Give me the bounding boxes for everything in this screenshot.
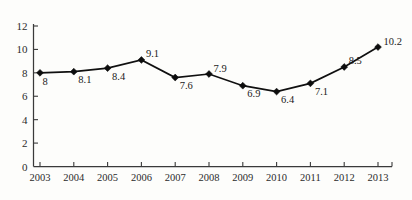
y-axis: 024681012 [17,20,39,173]
y-axis-tick-label: 2 [22,137,28,149]
y-axis-tick-label: 12 [17,20,28,32]
x-axis: 2003200420052006200720082009201020112012… [30,162,393,183]
data-point-marker [273,88,280,95]
data-point-marker [239,82,246,89]
data-point-label: 6.9 [247,88,260,99]
data-point-label: 8.4 [112,71,126,82]
data-point-label: 8.1 [78,74,91,85]
data-point-label: 6.4 [281,94,295,105]
data-point-marker [172,74,179,81]
data-point-label: 7.6 [180,80,193,91]
data-point-marker [138,57,145,64]
data-point-label: 7.1 [315,86,328,97]
data-point-label: 10.2 [384,36,402,47]
y-axis-tick-label: 8 [22,67,28,79]
x-axis-tick-label: 2003 [30,172,51,183]
x-axis-tick-label: 2010 [266,172,287,183]
y-axis-tick-label: 0 [22,161,28,173]
y-axis-tick-label: 10 [17,43,29,55]
data-point-marker [104,65,111,72]
data-point-label: 9.1 [146,48,159,59]
x-axis-tick-label: 2011 [300,172,321,183]
x-axis-tick-label: 2009 [232,172,253,183]
x-axis-tick-label: 2007 [165,172,186,183]
y-axis-tick-label: 6 [22,90,28,102]
data-point-label: 8 [43,76,48,87]
data-point-label: 7.9 [214,63,227,74]
x-axis-tick-label: 2006 [131,172,152,183]
data-point-label: 8.5 [349,55,362,66]
x-axis-tick-label: 2012 [334,172,355,183]
x-axis-tick-label: 2005 [97,172,118,183]
data-value-labels: 88.18.49.17.67.96.96.47.18.510.2 [43,36,402,105]
data-point-marker [307,80,314,87]
x-axis-tick-label: 2013 [368,172,389,183]
x-axis-tick-label: 2004 [63,172,85,183]
chart-canvas: 024681012 200320042005200620072008200920… [0,0,412,200]
data-point-marker [70,68,77,75]
data-point-marker [206,71,213,78]
x-axis-tick-label: 2008 [199,172,220,183]
line-chart: 024681012 200320042005200620072008200920… [0,0,412,200]
y-axis-tick-label: 4 [22,114,28,126]
